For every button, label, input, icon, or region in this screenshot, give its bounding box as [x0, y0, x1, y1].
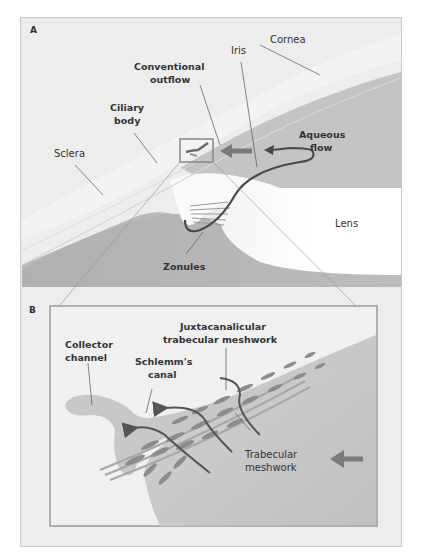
label-lens: Lens [335, 218, 358, 229]
panel-b: B [29, 305, 377, 526]
label-trabecular: Trabecular [244, 449, 298, 460]
label-iris: Iris [231, 45, 246, 56]
label-sclera: Sclera [54, 148, 85, 159]
panel-b-letter: B [29, 305, 36, 315]
label-channel: channel [65, 352, 107, 363]
label-conventional: Conventional [134, 61, 204, 72]
label-outflow: outflow [150, 74, 190, 85]
label-schlemm: Schlemm's [135, 356, 193, 367]
label-canal: canal [148, 369, 176, 380]
label-collector: Collector [65, 339, 113, 350]
panel-a-letter: A [30, 25, 37, 35]
label-ciliary: Ciliary [110, 102, 145, 113]
label-cornea: Cornea [270, 34, 306, 45]
label-juxta-2: trabecular meshwork [163, 334, 278, 345]
label-juxta-1: Juxtacanalicular [179, 321, 266, 332]
label-aqueous: Aqueous [299, 129, 346, 140]
panel-a: A Cornea Iris Conventional outflow Cilia… [22, 25, 401, 305]
label-body: body [114, 115, 141, 126]
eye-anatomy-diagram: A Cornea Iris Conventional outflow Cilia… [0, 0, 422, 559]
label-meshwork: meshwork [245, 462, 297, 473]
label-zonules: Zonules [163, 261, 206, 272]
label-flow: flow [310, 142, 333, 153]
